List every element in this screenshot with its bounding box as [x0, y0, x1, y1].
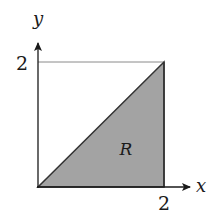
y-axis-label: y: [32, 8, 44, 29]
x-tick-label: 2: [158, 192, 170, 214]
region-label: R: [119, 139, 133, 159]
diagram-canvas: y x 2 2 R: [0, 0, 221, 220]
x-axis-label: x: [196, 175, 206, 196]
y-tick-label: 2: [16, 52, 28, 74]
region-r: [38, 62, 164, 187]
